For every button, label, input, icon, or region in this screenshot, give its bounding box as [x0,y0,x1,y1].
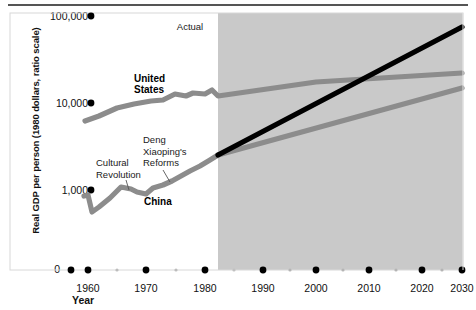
x-minor-tick-dot-2015 [394,268,397,271]
x-tick-dot-2020 [419,267,426,274]
x-tick-dot-2000 [313,267,320,274]
x-minor-tick-dot-1965 [115,268,118,271]
plot-area [0,0,476,310]
y-tick-dot-100000 [88,13,95,20]
x-tick-dot-2010 [366,267,373,274]
y-tick-dot-10000 [88,100,95,107]
y-tick-dot-1000 [88,187,95,194]
chart-figure: Real GDP per person (1980 dollars, ratio… [0,0,476,310]
x-tick-dot-2030 [459,267,466,274]
annotation-leader-deng-reforms [163,170,170,182]
projected-region-shading [218,13,463,270]
x-minor-tick-dot-1975 [174,268,177,271]
x-minor-tick-dot-2005 [341,268,344,271]
series-line-china [84,155,218,212]
x-minor-tick-dot-1985 [232,268,235,271]
x-tick-dot-1960 [85,267,92,274]
x-tick-dot-origin [68,267,75,274]
x-minor-tick-dot-2025 [440,268,443,271]
x-tick-dot-1980 [202,267,209,274]
x-tick-dot-1990 [260,267,267,274]
x-minor-tick-dot-1995 [288,268,291,271]
x-tick-dot-1970 [143,267,150,274]
